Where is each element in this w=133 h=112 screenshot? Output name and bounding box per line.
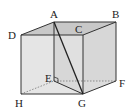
- cube-figure: A B C D E F G H: [0, 0, 133, 112]
- vertex-label-d: D: [8, 29, 16, 41]
- vertex-label-h: H: [15, 97, 23, 109]
- vertex-label-b: B: [112, 8, 119, 20]
- vertex-label-e: E: [45, 72, 52, 84]
- vertex-label-a: A: [50, 8, 58, 20]
- cube-diagram: A B C D E F G H: [0, 0, 133, 112]
- vertex-label-g: G: [78, 97, 86, 109]
- vertex-label-f: F: [119, 77, 125, 89]
- vertex-label-c: C: [75, 23, 82, 35]
